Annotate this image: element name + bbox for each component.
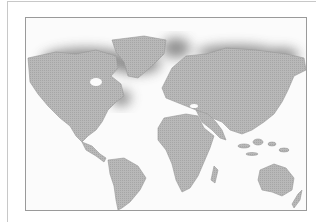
africa xyxy=(158,114,214,192)
world-map xyxy=(26,18,306,210)
indonesia xyxy=(238,139,289,156)
south-america xyxy=(108,158,146,210)
australia xyxy=(258,164,294,196)
new-zealand xyxy=(292,190,302,208)
madagascar xyxy=(211,166,218,183)
world-map-frame xyxy=(25,17,307,211)
north-america xyxy=(28,50,124,142)
central-america xyxy=(82,142,106,162)
